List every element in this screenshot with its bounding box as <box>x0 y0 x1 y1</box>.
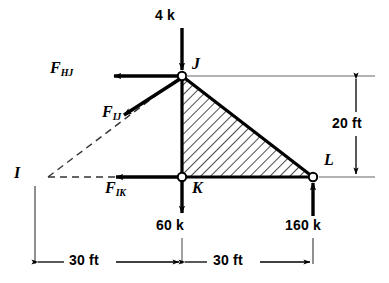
joint-label-j: J <box>192 56 200 72</box>
force-symbol-f: F <box>102 103 113 120</box>
force-subscript-hj: HJ <box>61 67 73 78</box>
force-arrow-fij <box>124 79 180 115</box>
force-label-fik: FIK <box>105 180 126 196</box>
joint-pin-l <box>309 173 317 181</box>
diagram-canvas <box>0 0 389 283</box>
force-symbol-f: F <box>50 59 61 76</box>
force-label-fhj: FHJ <box>50 60 73 76</box>
force-symbol-f: F <box>105 179 116 196</box>
joint-label-k: K <box>192 180 203 196</box>
force-label-fij: FIJ <box>102 104 121 120</box>
truss-free-body-diagram: J K L I 4 k FHJ FIJ FIK 60 k 160 k 20 ft… <box>0 0 389 283</box>
joint-label-l: L <box>324 152 334 168</box>
force-subscript-ij: IJ <box>113 111 121 122</box>
force-subscript-ik: IK <box>116 187 126 198</box>
joint-label-i: I <box>14 165 20 181</box>
load-label-4k: 4 k <box>155 8 175 22</box>
load-label-160k: 160 k <box>285 218 321 232</box>
dimension-label-30ft-right: 30 ft <box>213 253 243 267</box>
load-label-60k: 60 k <box>156 218 184 232</box>
dimension-label-20ft: 20 ft <box>332 116 362 130</box>
joint-pin-k <box>178 173 186 181</box>
dimension-label-30ft-left: 30 ft <box>69 253 99 267</box>
